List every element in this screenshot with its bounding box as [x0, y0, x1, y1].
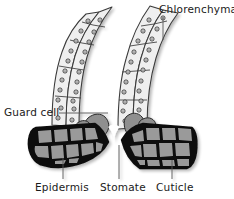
label-cuticle: Cuticle: [156, 181, 194, 193]
label-stomate: Stomate: [100, 181, 146, 193]
label-chlorenchyma: Chlorenchyma: [159, 3, 234, 15]
figure-canvas: Chlorenchyma Guard cell Epidermis Stomat…: [0, 0, 234, 199]
stomate-pore: [108, 125, 120, 143]
stomate-diagram: [0, 0, 234, 199]
chlorenchyma-left: [52, 7, 112, 127]
label-guard-cell: Guard cell: [4, 106, 59, 118]
chlorenchyma-right: [118, 6, 178, 129]
label-epidermis: Epidermis: [35, 181, 89, 193]
epidermis-left: [29, 124, 108, 167]
epidermis-right: [122, 124, 196, 168]
